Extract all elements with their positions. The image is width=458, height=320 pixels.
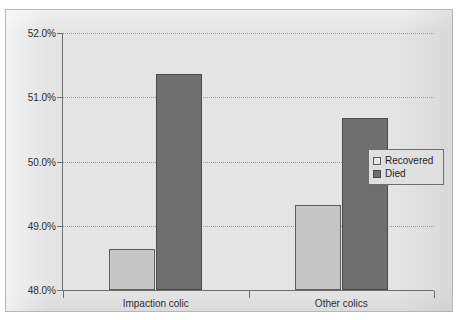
y-axis-label: 48.0% (6, 285, 56, 296)
x-axis-label-impaction-colic: Impaction colic (123, 298, 189, 309)
y-axis-label: 50.0% (6, 156, 56, 167)
gridline (63, 33, 434, 34)
x-axis-tick (63, 291, 64, 298)
x-axis-label-other-colics: Other colics (315, 298, 368, 309)
gridline (63, 97, 434, 98)
x-axis-tick (434, 291, 435, 298)
legend-item-died[interactable]: Died (373, 167, 438, 180)
chart-legend: Recovered Died (368, 149, 444, 185)
legend-item-recovered[interactable]: Recovered (373, 154, 438, 167)
chart-frame: 52.0%51.0%50.0%49.0%48.0% Impaction coli… (5, 9, 453, 312)
y-axis-label: 51.0% (6, 92, 56, 103)
legend-swatch-died-icon (373, 170, 381, 178)
legend-swatch-recovered-icon (373, 157, 381, 165)
bar-recovered-impaction-colic[interactable] (109, 249, 155, 290)
bar-died-other-colics[interactable] (342, 118, 388, 290)
y-axis-label: 52.0% (6, 28, 56, 39)
y-axis-label: 49.0% (6, 220, 56, 231)
legend-label-died: Died (385, 168, 406, 180)
bar-recovered-other-colics[interactable] (295, 205, 341, 290)
legend-label-recovered: Recovered (385, 155, 433, 167)
x-axis-tick (249, 291, 250, 298)
bar-died-impaction-colic[interactable] (156, 74, 202, 290)
